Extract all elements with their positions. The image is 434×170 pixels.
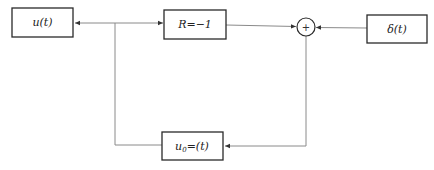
- block-delta: δ(t): [367, 15, 427, 43]
- block-u0-label: u0=(t): [175, 140, 209, 154]
- block-diagram: u(t) R=−1 + δ(t) u0=(t): [0, 0, 434, 170]
- block-u-label: u(t): [32, 16, 52, 29]
- block-u: u(t): [12, 8, 73, 37]
- block-delta-label: δ(t): [387, 23, 407, 36]
- summing-junction: +: [297, 18, 315, 36]
- block-R-label: R=−1: [177, 18, 212, 31]
- line-sum-to-u0: [225, 36, 306, 146]
- line-R-to-sum: [226, 25, 296, 27]
- block-u0: u0=(t): [162, 132, 223, 160]
- block-R: R=−1: [164, 10, 226, 39]
- plus-icon: +: [302, 22, 310, 33]
- line-u0-feedback: [115, 23, 162, 145]
- line-delta-to-sum: [316, 28, 367, 29]
